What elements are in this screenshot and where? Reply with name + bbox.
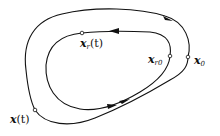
label-xr0: xr0 — [148, 54, 162, 67]
point-xr0 — [168, 54, 172, 58]
point-xt — [33, 108, 37, 112]
point-x0 — [186, 55, 190, 59]
inner-arrow-top-icon — [109, 28, 119, 34]
label-xrt: xr(t) — [80, 38, 103, 51]
trajectory-diagram — [0, 0, 220, 136]
label-x0: x0 — [194, 55, 205, 68]
inner-trajectory-curve — [46, 31, 171, 109]
inner-arrow-bottom-icon — [107, 104, 117, 109]
label-xt: x(t) — [10, 114, 30, 125]
point-xrt — [80, 31, 84, 35]
